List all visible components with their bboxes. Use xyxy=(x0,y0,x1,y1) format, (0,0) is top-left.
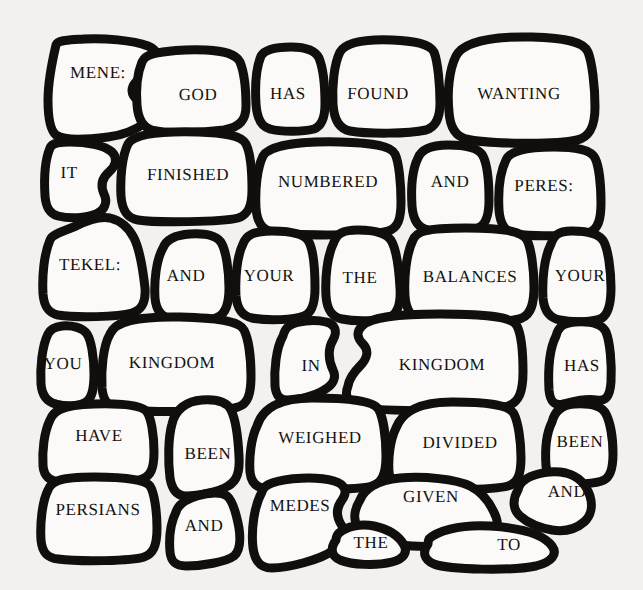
cell-it-shape[interactable] xyxy=(45,142,116,218)
cell-and-3-shape[interactable] xyxy=(170,493,240,566)
cell-your-1-shape[interactable] xyxy=(236,231,315,320)
cell-and-4-shape[interactable] xyxy=(514,472,591,531)
cell-has-shape[interactable] xyxy=(256,47,325,131)
cell-kingdom-1-shape[interactable] xyxy=(102,317,251,412)
cell-the-2-shape[interactable] xyxy=(332,525,405,564)
stone-wall-illustration: MENE:GODHASFOUNDWANTINGITFINISHEDNUMBERE… xyxy=(0,0,643,590)
cell-the-1-shape[interactable] xyxy=(326,230,400,321)
cell-numbered-shape[interactable] xyxy=(256,142,401,235)
cell-god-shape[interactable] xyxy=(137,50,246,133)
cell-to-shape[interactable] xyxy=(425,526,555,570)
cell-in-shape[interactable] xyxy=(275,321,336,400)
cell-you-shape[interactable] xyxy=(41,326,94,406)
cell-been-1-shape[interactable] xyxy=(169,400,239,496)
cell-balances-shape[interactable] xyxy=(405,228,534,322)
cell-your-2-shape[interactable] xyxy=(543,231,611,322)
cell-tekel-shape[interactable] xyxy=(43,217,145,316)
cell-has-2-shape[interactable] xyxy=(549,322,612,405)
stone-cells-group xyxy=(41,37,613,569)
cell-found-shape[interactable] xyxy=(333,40,440,133)
cell-wanting-shape[interactable] xyxy=(448,37,595,143)
cell-kingdom-2-shape[interactable] xyxy=(347,314,524,411)
cell-persians-shape[interactable] xyxy=(41,477,157,561)
cell-finished-shape[interactable] xyxy=(121,132,252,222)
cell-have-shape[interactable] xyxy=(43,404,154,483)
cell-and-1-shape[interactable] xyxy=(412,145,489,232)
cell-peres-shape[interactable] xyxy=(499,147,601,236)
cell-and-2-shape[interactable] xyxy=(155,234,229,321)
wall-mosaic-svg xyxy=(0,0,643,590)
